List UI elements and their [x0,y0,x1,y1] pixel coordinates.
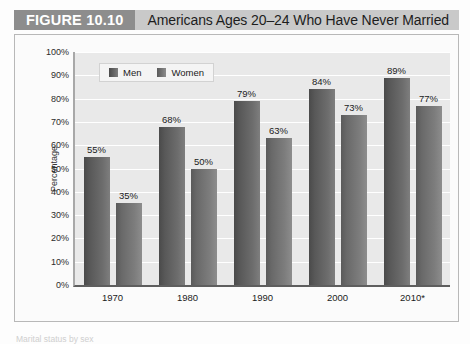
bar-women-1980: 50% [191,169,217,286]
y-axis-tick-label: 10% [35,257,69,267]
bar-women-2010: 77% [416,106,442,285]
bar-men-1980: 68% [159,127,185,285]
figure-number: FIGURE 10.10 [14,10,135,30]
y-axis-tick-label: 100% [35,47,69,57]
bar-men-2000: 84% [309,89,335,285]
bar-men-1990: 79% [234,101,260,285]
legend-item-men: Men [109,67,141,78]
y-axis-tick-label: 70% [35,117,69,127]
bar-value-label: 89% [387,65,406,76]
legend-swatch-women [157,68,166,77]
bar-women-1970: 35% [116,203,142,285]
x-axis-tick-label: 2010* [400,292,425,303]
bar-value-label: 50% [194,156,213,167]
chart-legend: MenWomen [99,63,214,82]
bar-men-1970: 55% [84,157,110,285]
plot-area: Percentage 0%10%20%30%40%50%60%70%80%90%… [73,52,450,287]
y-axis-tick-label: 50% [35,164,69,174]
y-axis-tick-label: 20% [35,233,69,243]
y-axis-tick-label: 0% [35,280,69,290]
bar-value-label: 55% [87,144,106,155]
x-axis-tick-label: 1970 [102,292,123,303]
bar-value-label: 77% [419,93,438,104]
figure-header: FIGURE 10.10 Americans Ages 20–24 Who Ha… [14,10,459,30]
y-axis-tick-label: 90% [35,70,69,80]
y-axis-tick-label: 30% [35,210,69,220]
legend-label: Women [171,67,204,78]
x-axis-tick-label: 1980 [177,292,198,303]
y-axis-tick-label: 60% [35,140,69,150]
legend-swatch-men [109,68,118,77]
bar-value-label: 73% [344,102,363,113]
x-axis-tick-label: 1990 [252,292,273,303]
gridline [75,52,450,53]
bar-value-label: 84% [312,76,331,87]
legend-item-women: Women [157,67,204,78]
figure-title: Americans Ages 20–24 Who Have Never Marr… [135,10,460,30]
x-axis-tick-label: 2000 [327,292,348,303]
bar-value-label: 68% [162,114,181,125]
bar-value-label: 35% [119,190,138,201]
y-axis-tick-label: 40% [35,187,69,197]
bar-women-1990: 63% [266,138,292,285]
bar-value-label: 63% [269,125,288,136]
footnote-text: Marital status by sex [16,334,93,344]
y-axis-tick-label: 80% [35,94,69,104]
bar-men-2010: 89% [384,78,410,285]
bar-value-label: 79% [237,88,256,99]
legend-label: Men [123,67,141,78]
chart-frame: Percentage 0%10%20%30%40%50%60%70%80%90%… [14,34,459,322]
bar-women-2000: 73% [341,115,367,285]
